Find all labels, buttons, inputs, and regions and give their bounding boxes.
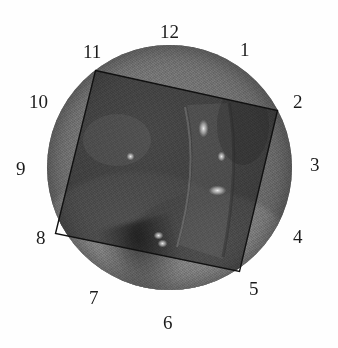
clock-label-5: 5 bbox=[249, 279, 259, 298]
roi-outline-svg bbox=[47, 45, 292, 290]
roi-rectangle-outline[interactable] bbox=[56, 71, 278, 272]
clock-label-1: 1 bbox=[240, 40, 250, 59]
clock-label-10: 10 bbox=[29, 92, 48, 111]
clock-label-11: 11 bbox=[83, 42, 101, 61]
clock-label-9: 9 bbox=[16, 159, 26, 178]
figure-canvas: 121234567891011 bbox=[0, 0, 338, 348]
circular-field-of-view bbox=[47, 45, 292, 290]
clock-label-2: 2 bbox=[293, 92, 303, 111]
clock-label-7: 7 bbox=[89, 288, 99, 307]
clock-label-8: 8 bbox=[36, 228, 46, 247]
clock-label-12: 12 bbox=[160, 22, 179, 41]
clock-label-3: 3 bbox=[310, 155, 320, 174]
clock-label-4: 4 bbox=[293, 227, 303, 246]
clock-label-6: 6 bbox=[163, 313, 173, 332]
